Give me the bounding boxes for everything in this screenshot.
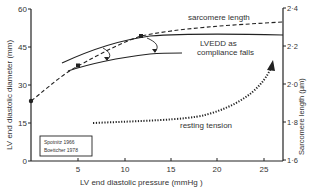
svg-text:10: 10 [121, 165, 130, 174]
x-tick-labels: 5 10 15 20 25 [76, 165, 269, 174]
svg-text:resting tension: resting tension [180, 121, 232, 130]
svg-text:0: 0 [23, 157, 28, 166]
x-axis-label: LV end diastolic pressure (mmHg ) [80, 178, 203, 187]
y-tick-labels: 0 15 30 45 60 [18, 5, 27, 166]
resting-tension-line [93, 68, 271, 123]
svg-text:15: 15 [18, 119, 27, 128]
annotations: sarcomere length LVEDD as compliance fal… [180, 13, 254, 130]
svg-text:1·6: 1·6 [287, 156, 298, 165]
y-axis-label: LV end diastolic diameter (mm) [5, 40, 14, 150]
svg-text:2·4: 2·4 [287, 4, 298, 13]
svg-text:compliance falls: compliance falls [197, 48, 254, 57]
data-point [29, 99, 33, 103]
svg-text:20: 20 [213, 165, 222, 174]
arrowhead-icon [267, 60, 275, 71]
svg-text:LVEDD as: LVEDD as [200, 39, 237, 48]
svg-text:sarcomere length: sarcomere length [188, 13, 250, 22]
chart: 0 15 30 45 60 5 10 15 20 25 1·6 1·8 2·0 … [0, 0, 309, 192]
svg-text:60: 60 [18, 5, 27, 14]
svg-text:2·2: 2·2 [287, 42, 298, 51]
svg-text:Spotnitz 1966: Spotnitz 1966 [44, 139, 75, 145]
svg-text:15: 15 [167, 165, 176, 174]
svg-text:25: 25 [260, 165, 269, 174]
svg-text:5: 5 [76, 165, 81, 174]
chart-svg: 0 15 30 45 60 5 10 15 20 25 1·6 1·8 2·0 … [0, 0, 309, 192]
svg-text:30: 30 [18, 81, 27, 90]
svg-text:45: 45 [18, 43, 27, 52]
svg-text:Boettcher 1978: Boettcher 1978 [44, 147, 78, 153]
y2-axis-label: Sarcomere length (µm) [297, 78, 306, 155]
